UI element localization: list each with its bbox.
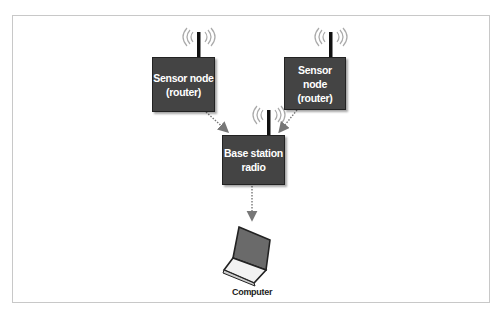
- antenna-icon-base-station: [253, 106, 285, 136]
- sensor-node-right-line1: Sensor node: [285, 63, 345, 91]
- sensor-node-right: Sensor node (router): [284, 57, 346, 110]
- base-station-line1: Base station: [224, 146, 283, 160]
- sensor-node-left: Sensor node (router): [152, 57, 215, 112]
- edge-sensor-right-to-base: [280, 110, 297, 131]
- antenna-icon-sensor-right: [315, 28, 347, 58]
- laptop-icon: [223, 227, 270, 286]
- sensor-node-right-line2: (router): [298, 91, 333, 105]
- base-station-radio: Base station radio: [222, 135, 285, 185]
- sensor-node-left-line1: Sensor node: [153, 71, 213, 85]
- computer-label: Computer: [232, 287, 272, 297]
- base-station-line2: radio: [241, 160, 265, 174]
- antenna-icon-sensor-left: [183, 28, 215, 58]
- edge-sensor-left-to-base: [206, 112, 227, 131]
- sensor-node-left-line2: (router): [166, 85, 201, 99]
